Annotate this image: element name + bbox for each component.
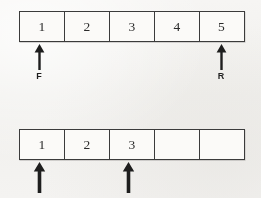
bottom-array-cell-0: 1 [20, 130, 65, 159]
front-pointer-arrow-up-icon [34, 44, 45, 70]
rear-pointer-arrow-up-icon [216, 44, 227, 70]
top-array-cell-2: 3 [110, 12, 155, 41]
diagram-canvas: 1 2 3 4 5 F R 1 2 3 [0, 0, 261, 198]
top-array-cell-3: 4 [155, 12, 200, 41]
bottom-array-cell-1: 2 [65, 130, 110, 159]
top-array-cell-1: 2 [65, 12, 110, 41]
rear-pointer-label: R [214, 72, 228, 81]
top-array-cell-4: 5 [200, 12, 243, 41]
bottom-right-pointer-arrow-up-icon [122, 162, 135, 193]
bottom-array: 1 2 3 [19, 129, 245, 160]
top-array: 1 2 3 4 5 [19, 11, 245, 42]
bottom-array-cell-2: 3 [110, 130, 155, 159]
bottom-left-pointer-arrow-up-icon [33, 162, 46, 193]
bottom-array-cell-3 [155, 130, 200, 159]
bottom-array-cell-4 [200, 130, 243, 159]
top-array-cell-0: 1 [20, 12, 65, 41]
front-pointer-label: F [32, 72, 46, 81]
